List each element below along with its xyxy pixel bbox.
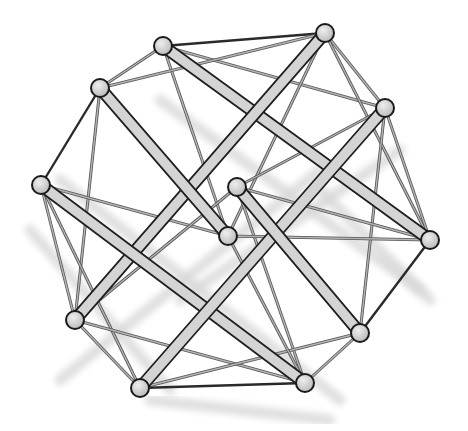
tensegrity-diagram: [0, 0, 468, 431]
diagram-canvas: [0, 0, 468, 431]
node-n10: [351, 324, 369, 342]
cable-highlight: [325, 33, 385, 108]
node-n4: [376, 99, 394, 117]
strut-shadow: [150, 400, 330, 420]
node-n12: [296, 374, 314, 392]
node-n2: [316, 24, 334, 42]
node-n5: [32, 176, 50, 194]
node-n8: [421, 231, 439, 249]
node-n11: [131, 379, 149, 397]
node-n1: [154, 37, 172, 55]
node-n6: [228, 178, 246, 196]
node-n9: [66, 311, 84, 329]
node-n3: [91, 79, 109, 97]
node-n7: [219, 227, 237, 245]
